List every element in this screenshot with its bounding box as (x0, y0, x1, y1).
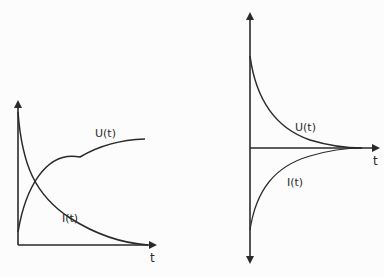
left-graph: U(t) I(t) t (18, 102, 155, 265)
diagram-canvas: U(t) I(t) t U(t) I(t) t (0, 0, 384, 277)
right-curve-i (250, 148, 362, 230)
right-x-label: t (373, 154, 378, 168)
right-curve-u (250, 56, 362, 148)
right-label-i: I(t) (287, 176, 303, 189)
left-x-label: t (150, 251, 155, 265)
right-graph: U(t) I(t) t (250, 14, 378, 262)
left-label-i: I(t) (62, 212, 78, 225)
left-label-u: U(t) (95, 127, 116, 140)
right-label-u: U(t) (295, 121, 316, 134)
